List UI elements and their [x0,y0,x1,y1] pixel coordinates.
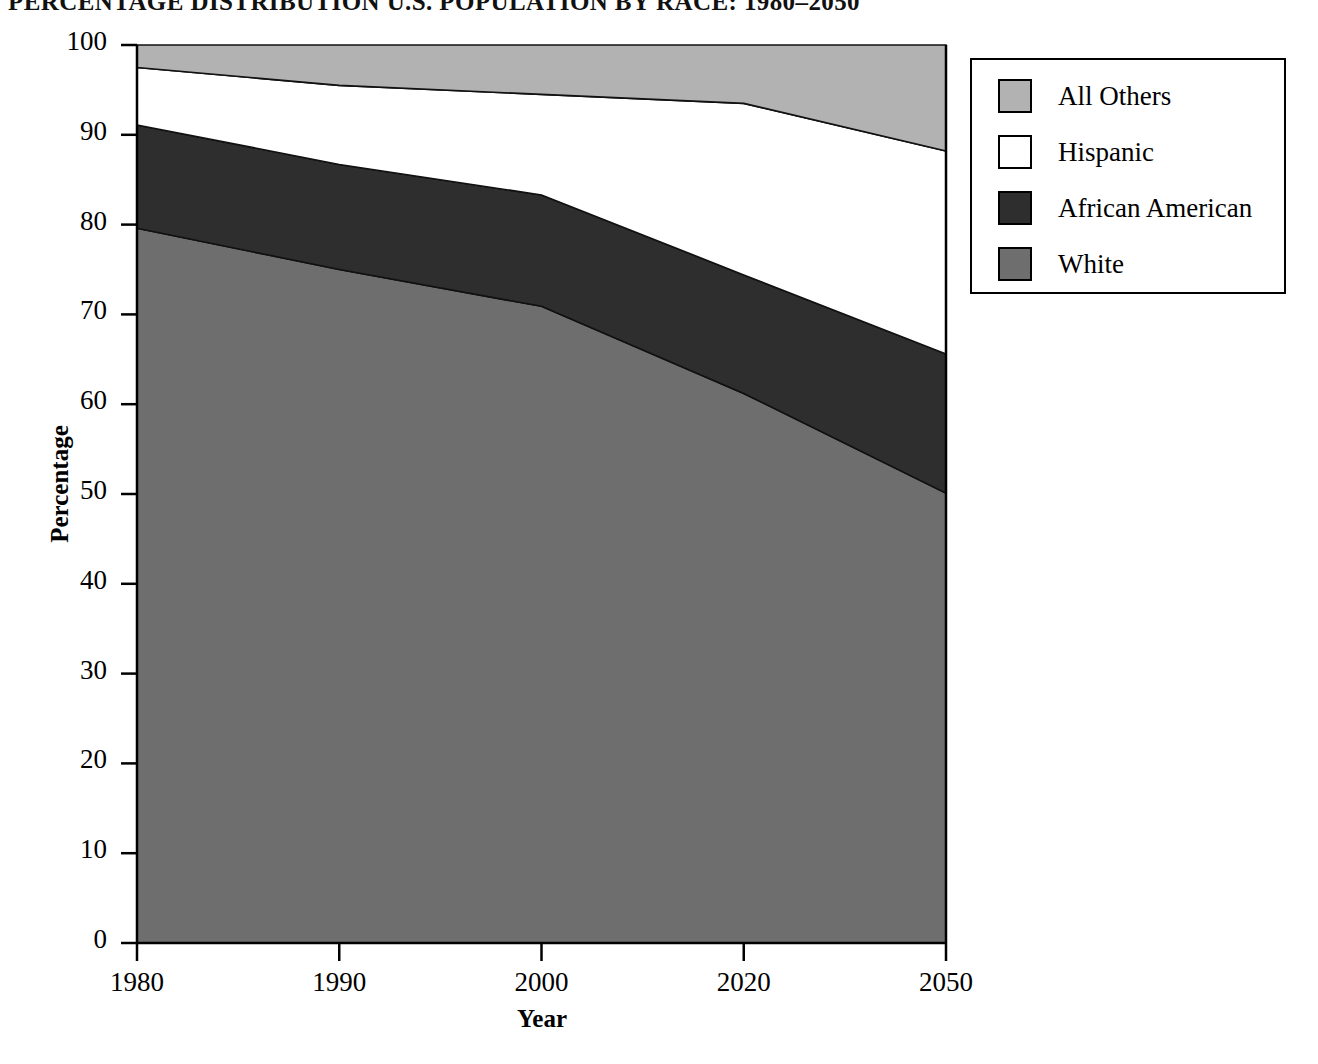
legend-item-african-american[interactable]: African American [998,190,1252,226]
y-tick-label: 70 [27,295,107,326]
legend-item-label: White [1058,249,1124,280]
chart-areas [137,45,946,943]
x-tick-label: 1980 [67,967,207,998]
y-tick-label: 30 [27,655,107,686]
legend-item-hispanic[interactable]: Hispanic [998,134,1154,170]
chart-legend: All OthersHispanicAfrican AmericanWhite [970,58,1286,294]
legend-item-white[interactable]: White [998,246,1124,282]
y-tick-label: 20 [27,744,107,775]
x-tick-label: 2020 [674,967,814,998]
x-tick-label: 1990 [269,967,409,998]
x-tick-label: 2000 [472,967,612,998]
legend-swatch-icon [998,191,1032,225]
x-tick-label: 2050 [876,967,1016,998]
y-tick-label: 60 [27,385,107,416]
legend-swatch-icon [998,79,1032,113]
x-axis-title: Year [437,1005,647,1033]
y-tick-label: 90 [27,116,107,147]
legend-item-label: All Others [1058,81,1171,112]
legend-item-label: African American [1058,193,1252,224]
y-tick-label: 50 [27,475,107,506]
y-tick-label: 40 [27,565,107,596]
chart-container: PERCENTAGE DISTRIBUTION U.S. POPULATION … [0,0,1318,1064]
legend-item-all-others[interactable]: All Others [998,78,1171,114]
legend-item-label: Hispanic [1058,137,1154,168]
y-tick-label: 0 [27,924,107,955]
y-tick-label: 100 [27,26,107,57]
y-tick-label: 10 [27,834,107,865]
y-tick-label: 80 [27,206,107,237]
legend-swatch-icon [998,247,1032,281]
legend-swatch-icon [998,135,1032,169]
